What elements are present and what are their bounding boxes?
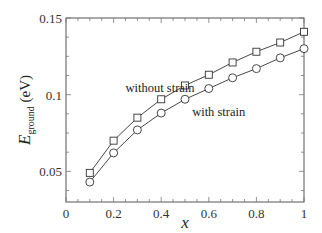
x-tick-label: 0.8 <box>248 206 264 221</box>
circle-marker <box>252 65 260 73</box>
circle-marker <box>157 109 165 117</box>
chart-canvas: 00.20.40.60.810.050.10.15 x Eground (eV)… <box>0 0 322 233</box>
x-tick-label: 0.2 <box>105 206 121 221</box>
square-marker <box>134 114 141 121</box>
y-tick-label: 0.1 <box>46 88 62 103</box>
x-tick-label: 0.6 <box>201 206 218 221</box>
square-marker <box>229 59 236 66</box>
square-marker <box>277 39 284 46</box>
square-marker <box>253 48 260 55</box>
series-annotation: without strain <box>126 81 196 95</box>
x-tick-label: 1 <box>301 206 308 221</box>
square-marker <box>86 169 93 176</box>
square-marker <box>205 71 212 78</box>
circle-marker <box>110 149 118 157</box>
y-axis-label-unit: (eV) <box>17 75 34 106</box>
circle-marker <box>276 54 284 62</box>
circle-marker <box>181 95 189 103</box>
square-marker <box>110 137 117 144</box>
series-line <box>90 32 304 173</box>
circle-marker <box>229 74 237 82</box>
x-tick-label: 0.4 <box>153 206 170 221</box>
circle-marker <box>133 126 141 134</box>
y-tick-label: 0.05 <box>39 164 62 179</box>
y-tick-label: 0.15 <box>39 11 62 26</box>
circle-marker <box>205 85 213 93</box>
x-tick-label: 0 <box>63 206 70 221</box>
square-marker <box>158 96 165 103</box>
axis-ticks <box>66 18 304 202</box>
y-axis-label: Eground (eV) <box>15 75 36 146</box>
square-marker <box>301 28 308 35</box>
plot-frame <box>66 18 304 202</box>
circle-marker <box>86 178 94 186</box>
y-axis-label-main: E <box>15 134 34 146</box>
y-axis-label-sub: ground <box>25 106 36 134</box>
series-annotation: with strain <box>192 105 246 119</box>
x-axis-label: x <box>180 213 189 232</box>
circle-marker <box>300 45 308 53</box>
tick-labels: 00.20.40.60.810.050.10.15 <box>39 11 307 221</box>
